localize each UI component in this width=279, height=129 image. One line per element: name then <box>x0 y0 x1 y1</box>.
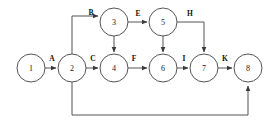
node-group: 1 2 3 4 5 6 <box>17 8 262 82</box>
node-7-label: 7 <box>202 64 206 73</box>
node-5[interactable]: 5 <box>149 8 177 36</box>
edge-label-C: C <box>90 54 95 63</box>
edge-label-K: K <box>222 54 228 63</box>
network-diagram: 1 2 3 4 5 6 <box>0 0 279 129</box>
node-6-label: 6 <box>161 64 165 73</box>
edge-label-F: F <box>132 54 137 63</box>
edge-label-E: E <box>135 9 140 18</box>
node-7[interactable]: 7 <box>190 54 218 82</box>
node-6[interactable]: 6 <box>149 54 177 82</box>
node-8-label: 8 <box>246 64 250 73</box>
node-4[interactable]: 4 <box>100 54 128 82</box>
node-1-label: 1 <box>29 64 33 73</box>
edge-J-dummy <box>72 82 248 115</box>
node-5-label: 5 <box>161 18 165 27</box>
edge-label-B: B <box>88 8 93 17</box>
node-2[interactable]: 2 <box>58 54 86 82</box>
node-4-label: 4 <box>112 64 116 73</box>
edge-H <box>177 22 204 52</box>
node-3-label: 3 <box>112 18 116 27</box>
node-8[interactable]: 8 <box>234 54 262 82</box>
edge-label-H: H <box>187 9 193 18</box>
network-diagram-canvas: 1 2 3 4 5 6 <box>0 0 279 129</box>
node-2-label: 2 <box>70 64 74 73</box>
node-3[interactable]: 3 <box>100 8 128 36</box>
edge-label-A: A <box>49 54 55 63</box>
edge-label-I: I <box>183 54 186 63</box>
node-1[interactable]: 1 <box>17 54 45 82</box>
edge-B <box>72 16 98 54</box>
